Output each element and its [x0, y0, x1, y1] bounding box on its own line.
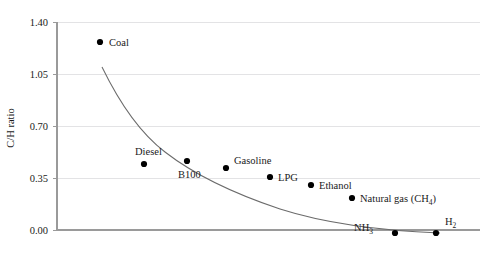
data-point	[349, 195, 355, 201]
y-axis-tick-label: 0.35	[30, 173, 48, 184]
y-axis-tick-label: 1.40	[30, 17, 48, 28]
data-point-label: Ethanol	[319, 180, 352, 191]
y-axis-tick-label: 0.00	[30, 225, 48, 236]
data-point	[267, 174, 273, 180]
chart-background	[0, 0, 492, 255]
chart-container: 1.401.050.700.350.00 C/H ratio CoalDiese…	[0, 0, 492, 255]
data-point	[433, 230, 439, 236]
data-point	[97, 39, 103, 45]
data-point	[223, 165, 229, 171]
data-point-label: B100	[178, 169, 201, 180]
data-point-label: Gasoline	[234, 155, 272, 166]
y-axis-tick-label: 0.70	[30, 121, 48, 132]
data-point	[184, 158, 190, 164]
data-point-label: Coal	[109, 37, 129, 48]
data-point	[141, 161, 147, 167]
data-point	[392, 230, 398, 236]
y-axis-tick-label: 1.05	[30, 69, 48, 80]
y-axis-title: C/H ratio	[5, 108, 16, 147]
data-point-label: Diesel	[135, 146, 162, 157]
data-point-label: LPG	[278, 172, 298, 183]
data-point	[308, 182, 314, 188]
ch-ratio-scatter-chart: 1.401.050.700.350.00 C/H ratio CoalDiese…	[0, 0, 492, 255]
